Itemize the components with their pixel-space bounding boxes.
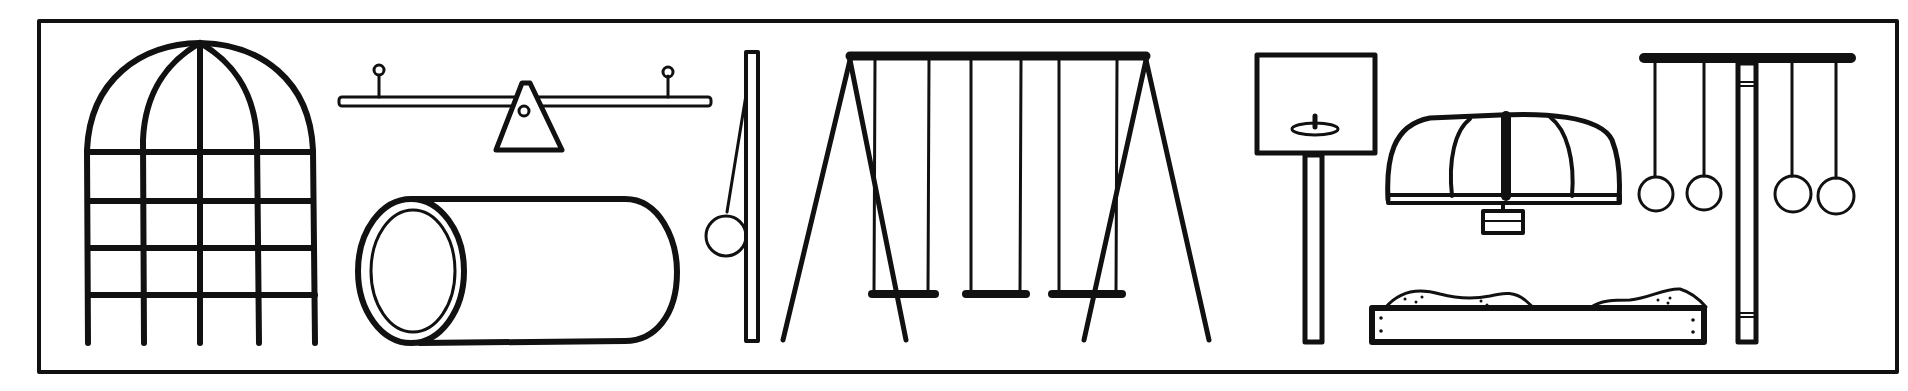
seesaw-handle-left [374,65,384,75]
ring-2 [1687,176,1721,210]
rings-pole [1738,63,1756,342]
sandbox-frame [1372,308,1704,342]
swing-set [783,56,1209,340]
basketball-hoop [1257,55,1375,342]
sandbox [1372,289,1706,342]
tetherball-ball [706,216,746,256]
seesaw [339,65,711,150]
seesaw-handle-right [663,67,673,77]
seesaw-pivot [496,83,562,150]
backboard [1257,55,1375,153]
crawl-tunnel [358,199,677,343]
ring-3 [1775,176,1811,212]
playground-illustration [0,0,1908,391]
merry-go-round [1388,114,1620,233]
ring-1 [1639,177,1673,211]
ring-4 [1818,178,1854,214]
gymnastic-rings [1639,58,1854,342]
dome-climber [87,43,315,343]
hoop-post [1305,155,1322,342]
tetherball [706,52,758,341]
